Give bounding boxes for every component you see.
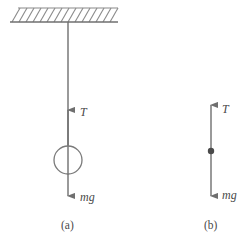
tension-label: T <box>80 105 88 119</box>
figure-canvas: T mg (a) T mg (b) <box>0 0 247 238</box>
panel-b-caption: (b) <box>204 219 218 232</box>
particle-dot <box>208 148 214 154</box>
panel-b: T mg (b) <box>204 102 237 232</box>
hatched-ceiling <box>10 8 118 22</box>
physics-figure: T mg (a) T mg (b) <box>0 0 247 238</box>
panel-a-caption: (a) <box>61 219 74 232</box>
panel-a: T mg (a) <box>10 8 118 232</box>
weight-label: mg <box>80 190 95 204</box>
tension-label: T <box>222 102 230 116</box>
weight-label: mg <box>222 188 237 202</box>
